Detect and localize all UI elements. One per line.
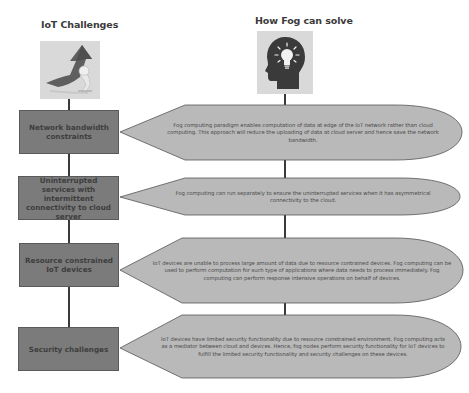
solution-text-3: IoT devices are unable to process large …	[152, 241, 452, 301]
solution-text-2: Fog computing can run separately to ensu…	[162, 180, 444, 214]
solution-text-1: Fog computing paradigm enables computati…	[158, 108, 448, 158]
challenge-box-resource-constrained: Resource constrained IoT devices	[19, 243, 119, 287]
challenge-label: Uninterrupted services with intermittent…	[22, 176, 115, 221]
challenge-label: Network bandwidth constraints	[23, 123, 115, 141]
challenge-box-security: Security challenges	[18, 327, 119, 371]
challenge-box-network-bandwidth: Network bandwidth constraints	[19, 110, 119, 154]
challenge-label: Security challenges	[29, 345, 109, 354]
challenge-box-uninterrupted-services: Uninterrupted services with intermittent…	[18, 176, 119, 220]
challenge-label: Resource constrained IoT devices	[23, 256, 115, 274]
solution-text-4: IoT devices have limited security functi…	[160, 318, 446, 376]
